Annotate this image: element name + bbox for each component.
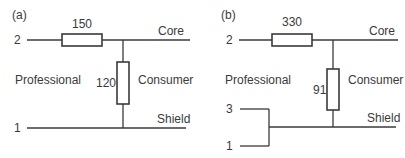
- panel-a-consumer-label: Consumer: [138, 74, 193, 86]
- panel-a-shunt-value: 120: [96, 77, 116, 89]
- panel-b-consumer-label: Consumer: [348, 74, 403, 86]
- panel-b-tag: (b): [221, 9, 236, 21]
- panel-b-shield-label: Shield: [367, 112, 400, 124]
- resistor-330: [272, 34, 312, 46]
- panel-b-terminal-1: 1: [226, 140, 233, 152]
- panel-a-terminal-1: 1: [14, 122, 21, 134]
- panel-a-professional-label: Professional: [15, 74, 81, 86]
- panel-b-series-value: 330: [282, 16, 302, 28]
- panel-a-series-value: 150: [72, 18, 92, 30]
- panel-b-terminal-2: 2: [226, 34, 233, 46]
- resistor-91: [327, 69, 339, 110]
- panel-b-core-label: Core: [369, 25, 395, 37]
- panel-a-tag: (a): [12, 9, 27, 21]
- panel-b-terminal-3: 3: [226, 103, 233, 115]
- panel-a-terminal-2: 2: [14, 34, 21, 46]
- panel-b-professional-label: Professional: [225, 74, 291, 86]
- panel-a-shield-label: Shield: [157, 113, 190, 125]
- resistor-120: [117, 62, 129, 104]
- resistor-150: [62, 34, 102, 46]
- panel-b-shunt-value: 91: [313, 84, 326, 96]
- panel-a-core-label: Core: [158, 25, 184, 37]
